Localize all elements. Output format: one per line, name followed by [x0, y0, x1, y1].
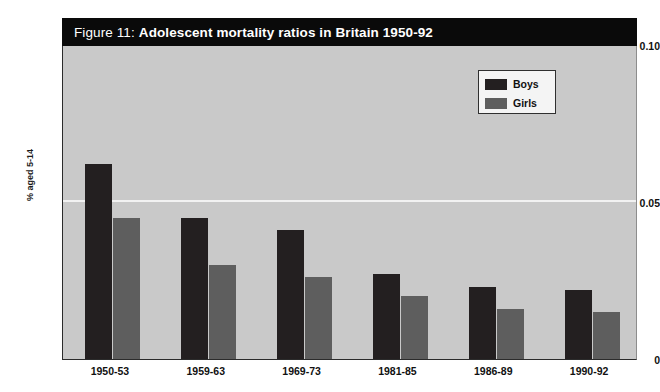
bar-group: [181, 46, 236, 359]
figure-container: Figure 11: Adolescent mortality ratios i…: [0, 0, 660, 392]
legend-item-girls[interactable]: Girls: [485, 95, 555, 111]
x-axis-tick-1969-73: 1969-73: [254, 366, 350, 377]
bar-girls-1981-85[interactable]: [401, 296, 428, 359]
bar-girls-1969-73[interactable]: [305, 277, 332, 359]
x-axis-tick-1981-85: 1981-85: [349, 366, 445, 377]
legend-swatch-girls-icon: [485, 98, 507, 109]
figure-title-text: Adolescent mortality ratios in Britain 1…: [139, 25, 433, 40]
x-axis-tick-1959-63: 1959-63: [158, 366, 254, 377]
legend-swatch-boys-icon: [485, 79, 507, 90]
gridline-005: [63, 200, 636, 202]
bar-boys-1969-73[interactable]: [277, 230, 304, 359]
bar-boys-1959-63[interactable]: [181, 218, 208, 359]
x-axis-tick-1986-89: 1986-89: [445, 366, 541, 377]
bar-girls-1990-92[interactable]: [593, 312, 620, 359]
figure-number-label: Figure 11:: [74, 25, 135, 40]
bar-boys-1950-53[interactable]: [85, 164, 112, 359]
bar-boys-1981-85[interactable]: [373, 274, 400, 359]
bar-group: [565, 46, 620, 359]
bar-boys-1986-89[interactable]: [469, 287, 496, 359]
legend-item-boys[interactable]: Boys: [485, 76, 555, 92]
bar-girls-1959-63[interactable]: [209, 265, 236, 359]
legend-label-boys: Boys: [513, 79, 539, 90]
legend-label-girls: Girls: [513, 98, 537, 109]
x-axis-tick-1990-92: 1990-92: [541, 366, 637, 377]
x-axis-tick-1950-53: 1950-53: [62, 366, 158, 377]
y-axis-title: % aged 5-14: [25, 125, 35, 225]
bar-group: [373, 46, 428, 359]
bar-girls-1986-89[interactable]: [497, 309, 524, 359]
chart-legend: BoysGirls: [478, 70, 556, 114]
bar-girls-1950-53[interactable]: [113, 218, 140, 359]
bar-boys-1990-92[interactable]: [565, 290, 592, 359]
figure-title-banner: Figure 11: Adolescent mortality ratios i…: [62, 18, 637, 46]
bar-group: [277, 46, 332, 359]
bar-group: [85, 46, 140, 359]
